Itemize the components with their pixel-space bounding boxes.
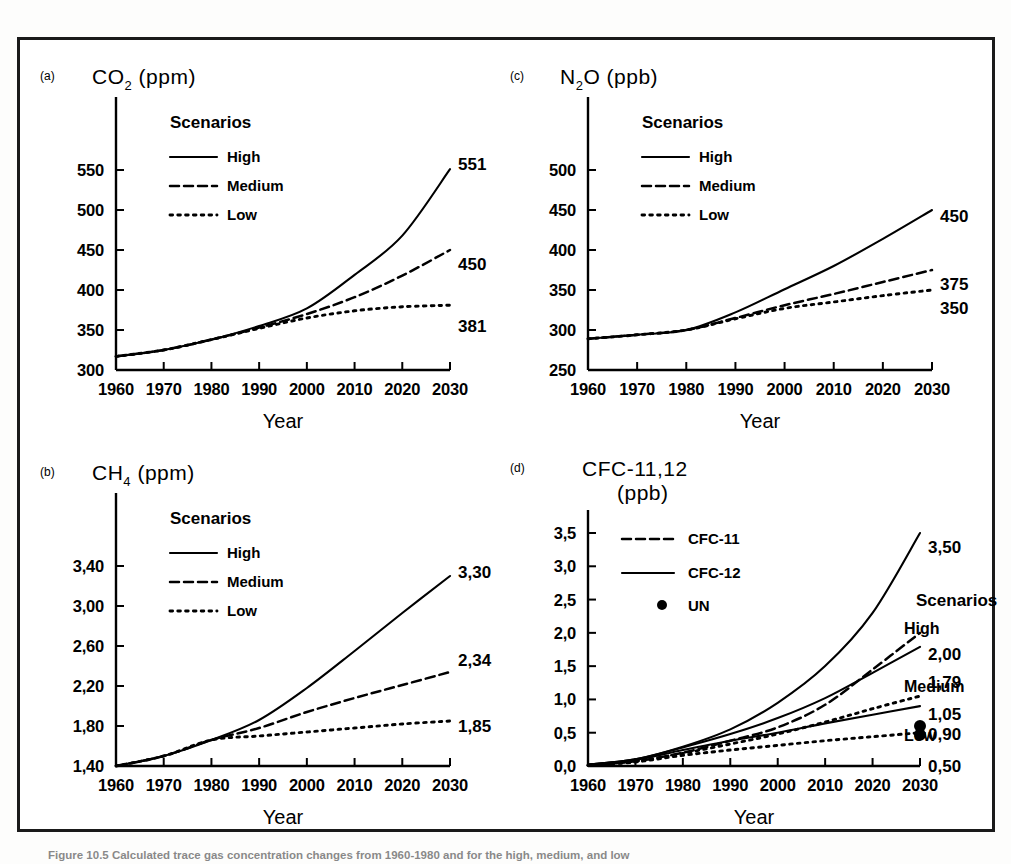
panel-c-end-labels: 450375350 bbox=[940, 207, 968, 318]
panel-d-legend: CFC-11 CFC-12 UN bbox=[622, 530, 741, 614]
legend-label-high: High bbox=[227, 148, 260, 165]
y-tick-label: 250 bbox=[549, 361, 576, 379]
x-tick-label: 2010 bbox=[337, 776, 373, 794]
legend-title: Scenarios bbox=[170, 113, 251, 132]
panel-c-letter: (c) bbox=[510, 69, 524, 83]
x-tick-label: 2010 bbox=[807, 776, 843, 794]
x-tick-label: 2020 bbox=[384, 776, 420, 794]
panel-b-x-ticks: 19601970198019902000201020202030 bbox=[98, 758, 468, 794]
series-curve-high bbox=[588, 210, 932, 339]
panel-c-x-ticks: 19601970198019902000201020202030 bbox=[570, 362, 950, 398]
panel-cfc: (d) CFC-11,12 (ppb) 0,00,51,01,52,02,53,… bbox=[492, 438, 998, 835]
panel-c-x-axis-name: Year bbox=[740, 410, 781, 432]
x-tick-label: 1990 bbox=[717, 380, 753, 398]
panel-c-title: N2O (ppb) bbox=[560, 65, 658, 93]
x-tick-label: 2000 bbox=[289, 776, 325, 794]
legend-label-low: Low bbox=[227, 206, 257, 223]
panel-b-title: CH4 (ppm) bbox=[92, 461, 195, 489]
series-curve-medium bbox=[588, 270, 932, 339]
panel-d-title: CFC-11,12 bbox=[582, 457, 688, 480]
legend-label-medium: Medium bbox=[227, 573, 284, 590]
figure-caption: Figure 10.5 Calculated trace gas concent… bbox=[48, 849, 978, 861]
y-tick-label: 2,5 bbox=[554, 591, 576, 609]
panel-d-curves bbox=[588, 533, 920, 765]
panel-ch4-svg: (b) CH4 (ppm) 1,401,802,202,603,003,40 1… bbox=[20, 438, 509, 835]
panel-co2: (a) CO2 (ppm) 300350400450500550 1960197… bbox=[20, 40, 509, 438]
end-label: 3,50 bbox=[928, 538, 961, 557]
end-label: 1,85 bbox=[458, 717, 491, 736]
panel-b-x-axis-name: Year bbox=[263, 806, 304, 828]
end-label: 450 bbox=[940, 207, 968, 226]
panel-a-legend: Scenarios High Medium Low bbox=[170, 113, 284, 223]
panel-d-scenario-medium: Medium bbox=[904, 678, 964, 695]
x-tick-label: 2030 bbox=[432, 380, 468, 398]
series-curve-cfc-12-high bbox=[588, 533, 920, 765]
y-tick-label: 3,40 bbox=[73, 557, 104, 575]
panel-n2o: (c) N2O (ppb) 250300350400450500 1960197… bbox=[492, 40, 998, 438]
legend-label-cfc12: CFC-12 bbox=[688, 564, 741, 581]
end-label: 1,05 bbox=[928, 705, 961, 724]
panel-b-end-labels: 3,302,341,85 bbox=[458, 563, 492, 736]
y-tick-label: 550 bbox=[77, 161, 104, 179]
end-label: 2,00 bbox=[928, 645, 961, 664]
panel-d-scenario-high: High bbox=[904, 620, 940, 637]
x-tick-label: 1980 bbox=[665, 776, 701, 794]
legend-label-un: UN bbox=[688, 597, 710, 614]
panel-co2-svg: (a) CO2 (ppm) 300350400450500550 1960197… bbox=[20, 40, 509, 438]
y-tick-label: 500 bbox=[77, 201, 104, 219]
y-tick-label: 0,0 bbox=[554, 757, 576, 775]
x-tick-label: 1960 bbox=[98, 776, 134, 794]
y-tick-label: 2,0 bbox=[554, 624, 576, 642]
panel-c-curves bbox=[588, 210, 932, 339]
end-label: 3,30 bbox=[458, 563, 491, 582]
y-tick-label: 400 bbox=[549, 241, 576, 259]
x-tick-label: 2000 bbox=[760, 776, 796, 794]
panel-b-letter: (b) bbox=[40, 465, 55, 479]
y-tick-label: 350 bbox=[77, 321, 104, 339]
panel-cfc-svg: (d) CFC-11,12 (ppb) 0,00,51,01,52,02,53,… bbox=[492, 438, 998, 835]
panel-a-letter: (a) bbox=[40, 69, 55, 83]
x-tick-label: 1960 bbox=[570, 380, 606, 398]
x-tick-label: 1960 bbox=[98, 380, 134, 398]
x-tick-label: 1980 bbox=[668, 380, 704, 398]
panel-a-axes bbox=[116, 97, 450, 370]
panel-d-scenario-low: Low bbox=[904, 727, 937, 744]
y-tick-label: 2,60 bbox=[73, 637, 104, 655]
y-tick-label: 1,5 bbox=[554, 657, 576, 675]
legend-swatch-un-dot-icon bbox=[657, 600, 667, 610]
y-tick-label: 500 bbox=[549, 161, 576, 179]
y-tick-label: 3,5 bbox=[554, 524, 576, 542]
x-tick-label: 1970 bbox=[146, 776, 182, 794]
y-tick-label: 3,0 bbox=[554, 557, 576, 575]
x-tick-label: 1960 bbox=[570, 776, 606, 794]
x-tick-label: 2030 bbox=[902, 776, 938, 794]
panel-a-x-ticks: 19601970198019902000201020202030 bbox=[98, 362, 468, 398]
y-tick-label: 1,40 bbox=[73, 757, 104, 775]
y-tick-label: 450 bbox=[77, 241, 104, 259]
y-tick-label: 350 bbox=[549, 281, 576, 299]
panel-d-x-axis-name: Year bbox=[734, 806, 775, 828]
x-tick-label: 2020 bbox=[855, 776, 891, 794]
legend-label-high: High bbox=[227, 544, 260, 561]
y-tick-label: 3,00 bbox=[73, 597, 104, 615]
legend-title: Scenarios bbox=[642, 113, 723, 132]
panel-c-legend: Scenarios High Medium Low bbox=[642, 113, 756, 223]
x-tick-label: 2030 bbox=[914, 380, 950, 398]
y-tick-label: 2,20 bbox=[73, 677, 104, 695]
x-tick-label: 1970 bbox=[619, 380, 655, 398]
panel-d-axes bbox=[588, 510, 920, 766]
end-label: 381 bbox=[458, 317, 486, 336]
x-tick-label: 1990 bbox=[241, 380, 277, 398]
y-tick-label: 0,5 bbox=[554, 724, 576, 742]
panel-b-curves bbox=[116, 576, 450, 766]
series-curve-medium bbox=[116, 672, 450, 766]
panel-c-axes bbox=[588, 97, 932, 370]
series-curve-low bbox=[116, 721, 450, 766]
legend-label-cfc11: CFC-11 bbox=[688, 530, 740, 547]
panel-d-scenarios-title: Scenarios bbox=[916, 591, 997, 610]
panel-b-legend: Scenarios High Medium Low bbox=[170, 509, 284, 619]
y-tick-label: 1,80 bbox=[73, 717, 104, 735]
y-tick-label: 300 bbox=[77, 361, 104, 379]
series-curve-low bbox=[588, 290, 932, 339]
series-curve-cfc-11-high bbox=[588, 633, 920, 765]
